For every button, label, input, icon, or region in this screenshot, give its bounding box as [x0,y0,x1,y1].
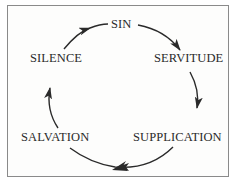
arrow-sin-to-servitude [138,25,180,50]
node-sin: SIN [111,17,131,32]
arrow-silence-to-sin [64,28,90,49]
arrow-servitude-to-supplication [190,72,198,108]
node-supplication: SUPPLICATION [133,130,222,145]
node-servitude: SERVITUDE [154,51,223,66]
arrowhead-bottom [112,161,128,171]
node-silence: SILENCE [30,51,82,66]
arrow-salvation-to-silence [49,88,58,128]
node-salvation: SALVATION [21,130,89,145]
